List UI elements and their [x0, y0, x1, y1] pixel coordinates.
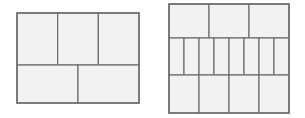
layout-cell — [169, 75, 199, 113]
layout-diagrams — [0, 0, 305, 118]
layout-cell — [229, 38, 244, 75]
layout-cell — [244, 38, 259, 75]
layout-cell — [209, 4, 249, 38]
layout-cell — [199, 75, 229, 113]
layout-cell — [229, 75, 259, 113]
right-layout — [169, 4, 289, 113]
layout-cell — [58, 13, 99, 65]
layout-cell — [169, 38, 184, 75]
layout-cell — [259, 38, 274, 75]
layout-cell — [184, 38, 199, 75]
layout-cell — [249, 4, 289, 38]
left-layout — [17, 13, 139, 103]
layout-cell — [259, 75, 289, 113]
layout-cell — [78, 65, 139, 103]
layout-cell — [98, 13, 139, 65]
layout-cell — [169, 4, 209, 38]
layout-cell — [274, 38, 289, 75]
layout-cell — [214, 38, 229, 75]
layout-cell — [17, 65, 78, 103]
layout-cell — [17, 13, 58, 65]
layout-cell — [199, 38, 214, 75]
